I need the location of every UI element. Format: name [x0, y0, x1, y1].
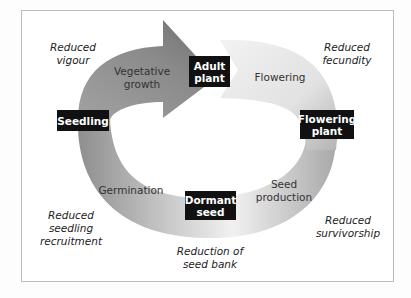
- adult-plant-label-line2: plant: [194, 72, 225, 84]
- reduced-seedling-recruitment-line1: Reduced: [38, 209, 104, 222]
- effect-reduced-vigour: Reduced vigour: [42, 41, 104, 67]
- reduced-fecundity-line2: fecundity: [312, 54, 382, 67]
- flowering-label: Flowering: [250, 71, 310, 84]
- dormant-seed-label-line1: Dormant: [185, 194, 237, 206]
- adult-plant-label-line1: Adult: [194, 60, 226, 72]
- process-vegetative-growth: Vegetative growth: [104, 65, 180, 91]
- effect-reduction-of-seed-bank: Reduction of seed bank: [170, 245, 250, 271]
- stage-box-flowering-plant: Flowering plant: [300, 110, 354, 139]
- dormant-seed-label-line2: seed: [196, 206, 224, 218]
- stage-box-seedling: Seedling: [57, 110, 109, 131]
- reduced-vigour-line1: Reduced: [42, 41, 104, 54]
- process-seed-production: Seed production: [252, 178, 316, 204]
- effect-reduced-fecundity: Reduced fecundity: [312, 41, 382, 67]
- stage-box-dormant-seed: Dormant seed: [185, 191, 236, 220]
- reduced-vigour-line2: vigour: [42, 54, 104, 67]
- reduction-of-seed-bank-line1: Reduction of: [170, 245, 250, 258]
- vegetative-growth-line1: Vegetative: [104, 65, 180, 78]
- reduced-survivorship-line2: survivorship: [310, 227, 386, 240]
- germination-label: Germination: [96, 184, 166, 197]
- effect-reduced-seedling-recruitment: Reduced seedling recruitment: [38, 209, 104, 248]
- process-flowering: Flowering: [250, 71, 310, 84]
- vegetative-growth-line2: growth: [104, 78, 180, 91]
- reduced-seedling-recruitment-line3: recruitment: [38, 235, 104, 248]
- effect-reduced-survivorship: Reduced survivorship: [310, 214, 386, 240]
- seed-production-line2: production: [252, 191, 316, 204]
- reduced-survivorship-line1: Reduced: [310, 214, 386, 227]
- process-germination: Germination: [96, 184, 166, 197]
- reduced-fecundity-line1: Reduced: [312, 41, 382, 54]
- flowering-plant-label-line1: Flowering: [298, 113, 357, 125]
- seedling-label: Seedling: [57, 115, 109, 127]
- reduction-of-seed-bank-line2: seed bank: [170, 258, 250, 271]
- flowering-plant-label-line2: plant: [312, 125, 343, 137]
- reduced-seedling-recruitment-line2: seedling: [38, 222, 104, 235]
- seed-production-line1: Seed: [252, 178, 316, 191]
- stage-box-adult-plant: Adult plant: [189, 56, 230, 87]
